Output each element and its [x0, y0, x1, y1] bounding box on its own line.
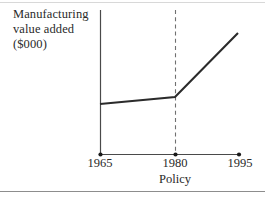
bottom-rule	[0, 191, 265, 192]
data-series-line	[100, 33, 238, 104]
x-tick-label-1980: 1980	[153, 156, 197, 170]
x-axis-label: Policy	[145, 172, 205, 186]
figure-container: Manufacturing value added ($000) 1965 19…	[0, 0, 265, 198]
x-tick-label-1965: 1965	[78, 156, 122, 170]
x-tick-label-1995: 1995	[218, 156, 262, 170]
